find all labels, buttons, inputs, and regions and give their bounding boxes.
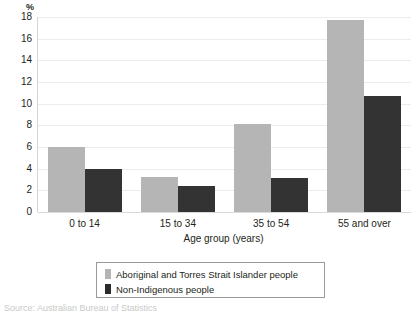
y-axis-tick-label: 10 (4, 99, 32, 109)
y-axis-tick-label: 14 (4, 55, 32, 65)
y-axis-tick-label: 18 (4, 12, 32, 22)
x-axis-title: Age group (years) (37, 233, 410, 244)
legend-item-non-indigenous-people: Non-Indigenous people (105, 282, 324, 296)
legend: Aboriginal and Torres Strait Islander pe… (96, 262, 325, 298)
y-axis-tick-label: 0 (4, 207, 32, 217)
legend-swatch-icon-series-b (105, 284, 111, 294)
bar (234, 124, 271, 212)
legend-swatch-icon-series-a (105, 269, 111, 279)
x-axis-tick-label: 0 to 14 (38, 218, 131, 229)
y-axis-tick-label: 12 (4, 77, 32, 87)
y-axis-tick-label: 16 (4, 34, 32, 44)
bar (48, 147, 85, 212)
bar (141, 177, 178, 212)
bar (85, 169, 122, 212)
legend-label-series-a: Aboriginal and Torres Strait Islander pe… (116, 269, 298, 280)
caption-strip: Source: Australian Bureau of Statistics (0, 303, 419, 311)
y-axis-tick-label: 4 (4, 164, 32, 174)
caption-text: Source: Australian Bureau of Statistics (0, 303, 419, 311)
legend-item-aboriginal-and-torres-strait-islander-people: Aboriginal and Torres Strait Islander pe… (105, 267, 324, 281)
x-axis-tick-label: 55 and over (318, 218, 411, 229)
bar (178, 186, 215, 212)
bar (271, 178, 308, 212)
bar (327, 20, 364, 212)
bar (364, 96, 401, 212)
x-axis-tick-label: 15 to 34 (131, 218, 224, 229)
x-axis-tick-label: 35 to 54 (225, 218, 318, 229)
legend-label-series-b: Non-Indigenous people (116, 284, 214, 295)
y-axis-tick-label: 2 (4, 185, 32, 195)
bar-chart: % 024681012141618 Age group (years) Abor… (0, 0, 419, 311)
gridline (38, 212, 411, 213)
y-axis-tick-label: 8 (4, 120, 32, 130)
y-axis-tick-label: 6 (4, 142, 32, 152)
bars-layer (38, 17, 410, 212)
y-axis-tick-labels: 024681012141618 (0, 17, 32, 212)
